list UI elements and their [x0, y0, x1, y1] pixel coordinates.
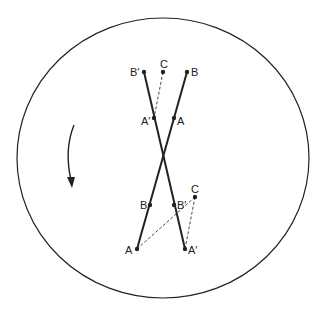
point-aprime-lower: [183, 247, 187, 251]
point-b-upper: [185, 70, 189, 74]
label-a-upper: A: [177, 115, 185, 127]
dashed-c-aprime-upper: [154, 72, 163, 118]
label-bprime-lower: B′: [177, 199, 186, 211]
point-a-upper: [172, 116, 176, 120]
label-b-lower: B: [140, 199, 147, 211]
point-aprime-upper: [152, 116, 156, 120]
curved-arrow-icon: [67, 125, 75, 188]
label-c-lower: C: [191, 183, 199, 195]
point-b-lower: [148, 203, 152, 207]
label-b-upper: B: [191, 66, 198, 78]
point-c-lower: [193, 195, 197, 199]
label-aprime-upper: A′: [141, 115, 150, 127]
label-aprime-lower: A′: [188, 244, 197, 256]
point-c-upper: [161, 70, 165, 74]
point-bprime-upper: [142, 70, 146, 74]
label-c-upper: C: [160, 58, 168, 70]
label-bprime-upper: B′: [130, 66, 139, 78]
label-a-lower: A: [125, 244, 133, 256]
rotation-diagram: B′ C B A′ A B B′ C A A′: [0, 0, 322, 310]
point-a-lower: [135, 247, 139, 251]
point-bprime-lower: [172, 203, 176, 207]
